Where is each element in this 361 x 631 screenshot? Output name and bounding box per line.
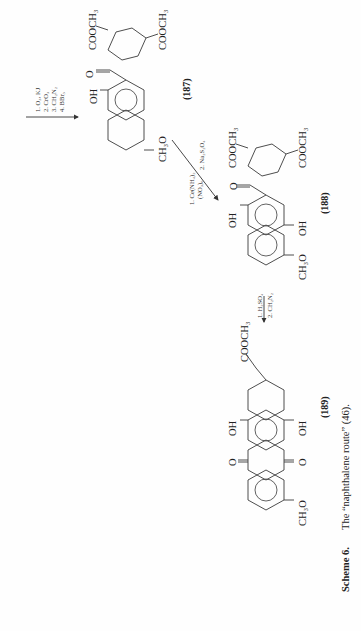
ester-group-1: COOCH₃ [227, 127, 238, 168]
reaction-arrow-step-1: 1. O₃, KJ 2. CrO₃ 3. CH₂N₂ 4. BBr₃ [26, 87, 78, 117]
arrow-icon [172, 140, 218, 200]
compound-label-187: (187) [181, 78, 193, 100]
hydroxyl-group-2: OH [297, 420, 308, 436]
reaction-arrow-step-3: 1. H₂SO₄ 2. CH₂N₂ [256, 293, 273, 322]
methoxy-group: CH₃O [157, 136, 168, 162]
ketone-oxygen: O [228, 182, 239, 190]
methoxy-group: CH₃O [297, 254, 308, 280]
scheme-caption: Scheme 6. The “naphthalene route” (46). [340, 404, 352, 592]
compound-189: COOCH₃ OH OH O O CH₃O (189) [227, 321, 331, 526]
reaction-scheme-figure: Scheme 6. The “naphthalene route” (46). … [0, 0, 361, 631]
quinone-oxygen-1: O [227, 458, 238, 466]
reagent-line: 2. CH₂N₂ [266, 293, 273, 318]
reagent-line: 2. Na₂S₂O₄ [198, 140, 205, 170]
methoxy-group: CH₃O [297, 500, 308, 526]
reagents-step-1: 1. O₃, KJ 2. CrO₃ 3. CH₂N₂ 4. BBr₃ [34, 87, 65, 112]
hydroxyl-group: OH [88, 88, 99, 104]
reagent-line: 1. H₂SO₄ [256, 293, 263, 318]
compound-188: O COOCH₃ COOCH₃ OH OH CH₃O (188) [227, 127, 331, 280]
document-page: Scheme 6. The “naphthalene route” (46). … [0, 0, 361, 631]
ketone-oxygen: O [84, 70, 95, 78]
caption-label: Scheme 6. [340, 547, 351, 592]
compound-187: O COOCH₃ COOCH₃ OH CH₃O (187) [84, 9, 193, 162]
hydroxyl-group-1: OH [227, 420, 238, 436]
ester-group: COOCH₃ [239, 321, 250, 362]
caption-text: The “naphthalene route” (46). [340, 404, 352, 530]
reagents-step-2a: 1. Ce(NH₄)₂ (NO₃)₆ [188, 173, 204, 205]
reagent-line: 2. CrO₃ [42, 92, 49, 112]
ester-group-2: COOCH₃ [297, 127, 308, 168]
hydroxyl-group-1: OH [227, 212, 238, 228]
compound-label-188: (188) [319, 192, 331, 214]
hydroxyl-group-2: OH [297, 220, 308, 236]
reagents-step-3: 1. H₂SO₄ 2. CH₂N₂ [256, 293, 273, 318]
ester-group-1: COOCH₃ [87, 9, 98, 50]
reagent-line: 1. Ce(NH₄)₂ [188, 173, 196, 205]
reagent-line: 4. BBr₃ [58, 92, 65, 112]
reagent-line: 3. CH₂N₂ [50, 87, 57, 112]
reagents-step-2b: 2. Na₂S₂O₄ [198, 140, 205, 170]
reagent-line: (NO₃)₆ [196, 180, 204, 199]
reagent-line: 1. O₃, KJ [34, 87, 41, 112]
reaction-arrow-step-2: 1. Ce(NH₄)₂ (NO₃)₆ 2. Na₂S₂O₄ [172, 140, 218, 205]
quinone-oxygen-2: O [297, 458, 308, 466]
compound-label-189: (189) [319, 396, 331, 418]
ester-group-2: COOCH₃ [157, 9, 168, 50]
